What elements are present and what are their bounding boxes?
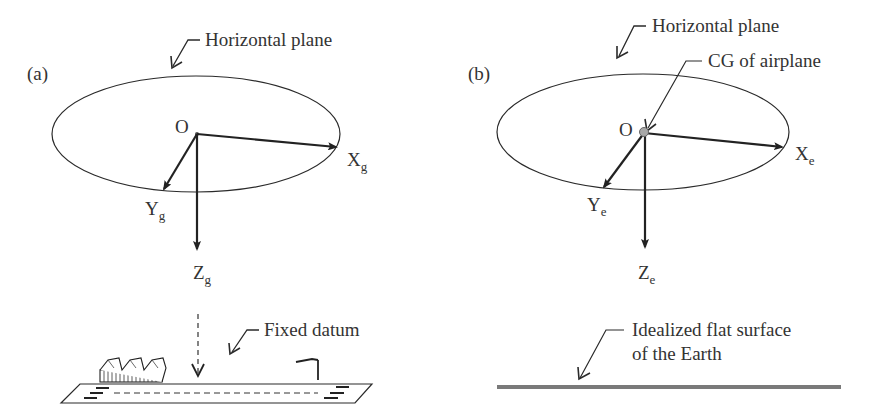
leader-arrow-icon bbox=[171, 56, 182, 68]
earth-surface-callout: Idealized flat surface of the Earth bbox=[578, 319, 791, 379]
y-axis-label-a: Yg bbox=[145, 198, 166, 223]
windsock-icon bbox=[296, 359, 318, 380]
x-axis-label-b: Xe bbox=[795, 143, 815, 168]
horizontal-plane-label-a: Horizontal plane bbox=[205, 29, 332, 50]
y-axis-arrow-a bbox=[164, 134, 197, 189]
panel-b: (b) Horizontal plane CG of airplane O Xe… bbox=[468, 15, 841, 387]
fixed-datum-label: Fixed datum bbox=[264, 319, 360, 340]
cg-label: CG of airplane bbox=[708, 50, 821, 71]
origin-label-a: O bbox=[175, 116, 189, 137]
origin-label-b: O bbox=[619, 119, 633, 140]
y-axis-label-b: Ye bbox=[587, 194, 607, 219]
fixed-datum-callout: Fixed datum bbox=[229, 319, 360, 354]
x-axis-arrow-b bbox=[644, 133, 782, 147]
x-axis-label-a: Xg bbox=[347, 149, 368, 174]
z-axis-label-a: Zg bbox=[193, 262, 212, 287]
earth-surface-label-line1: Idealized flat surface bbox=[632, 319, 791, 340]
earth-surface-label-line2: of the Earth bbox=[632, 343, 722, 364]
horizontal-plane-label-b: Horizontal plane bbox=[652, 15, 779, 36]
panel-b-tag: (b) bbox=[468, 63, 490, 85]
runway-illustration bbox=[61, 384, 372, 403]
hangar-building-icon bbox=[100, 358, 166, 382]
reference-frames-diagram: (a) Horizontal plane O Xg Yg Zg Fixed da… bbox=[0, 0, 881, 420]
panel-a-tag: (a) bbox=[27, 63, 48, 85]
horizontal-plane-callout-a: Horizontal plane bbox=[171, 29, 332, 68]
panel-a: (a) Horizontal plane O Xg Yg Zg Fixed da… bbox=[27, 29, 372, 403]
z-axis-label-b: Ze bbox=[638, 262, 656, 287]
cg-point bbox=[640, 128, 649, 137]
x-axis-arrow-a bbox=[197, 134, 336, 147]
cg-callout: CG of airplane bbox=[645, 50, 821, 131]
y-axis-arrow-b bbox=[604, 133, 644, 187]
